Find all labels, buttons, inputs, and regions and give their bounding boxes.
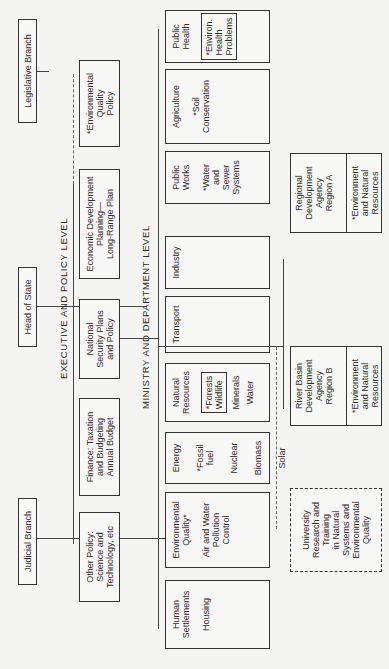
ministry-title: Industry bbox=[166, 237, 181, 288]
ministry-box-energy: Energy *Fossil fuel Nuclear Biomass Sola… bbox=[165, 432, 270, 484]
diagram-frame: Legislative Branch Head of State Judicia… bbox=[0, 0, 389, 669]
ministry-title: Transport bbox=[166, 297, 181, 352]
ministry-box-transport: Transport bbox=[165, 296, 270, 353]
org-chart: Legislative Branch Head of State Judicia… bbox=[0, 0, 389, 669]
university-label: University Research and Training in Natu… bbox=[301, 501, 371, 559]
exec-box-economic-development: Economic Development Planning— Long-Rang… bbox=[79, 169, 120, 279]
ministry-box-natural-resources: Natural Resources *Forests Wildlife Mine… bbox=[165, 363, 270, 422]
exec-bus-dashed bbox=[73, 74, 74, 184]
exec-box-label: Economic Development Planning— Long-Rang… bbox=[85, 176, 115, 271]
ministry-boxed-item: *Forests Wildlife bbox=[201, 372, 227, 414]
ministry-level-label: MINISTRY AND DEPARTMENT LEVEL bbox=[140, 225, 151, 409]
exec-box-label: Other Policy: Science and Technology, et… bbox=[85, 526, 115, 588]
ministry-items: *Fossil fuel Nuclear Biomass Solar bbox=[185, 433, 301, 483]
ministry-box-human-settlements: Human Settlements Housing bbox=[165, 580, 270, 649]
ministry-item: Nuclear bbox=[229, 433, 239, 483]
exec-box-finance: Finance: Taxation and Budgeting Annual B… bbox=[79, 398, 120, 496]
ministry-item: Biomass bbox=[253, 433, 263, 483]
agency-title: River Basin Development Agency Region B bbox=[291, 347, 347, 425]
ministry-title: Human Settlements bbox=[166, 581, 191, 648]
exec-box-label: Finance: Taxation and Budgeting Annual B… bbox=[85, 412, 115, 482]
ministry-item: Housing bbox=[201, 581, 211, 648]
executive-level-label: EXECUTIVE AND POLICY LEVEL bbox=[58, 218, 69, 379]
judicial-branch-box: Judicial Branch bbox=[18, 498, 37, 585]
exec-box-environmental-quality-policy: *Environmental Quality Policy bbox=[79, 60, 120, 147]
ministry-item: Solar bbox=[277, 433, 287, 483]
ministry-items: Air and Water Pollution Control bbox=[201, 493, 231, 567]
ministry-box-environmental-quality: Environmental Quality* Air and Water Pol… bbox=[165, 492, 270, 568]
legislative-label: Legislative Branch bbox=[23, 34, 33, 108]
university-dashed-connector bbox=[276, 347, 277, 529]
ministry-box-public-health: Public Health *Environ. Health Problems bbox=[165, 10, 270, 63]
connector bbox=[120, 338, 158, 339]
agency-box-region-a: Regional Development Agency Region A *En… bbox=[290, 153, 382, 233]
agency-sub: *Environment and Natural Resources bbox=[347, 154, 381, 232]
ministry-item: *Soil Conservation bbox=[191, 70, 211, 143]
ministry-items: *Water and Sewer Systems bbox=[201, 152, 241, 203]
ministry-items: *Soil Conservation bbox=[191, 70, 211, 143]
ministry-item: Water bbox=[245, 364, 255, 421]
ministry-item: *Water and Sewer Systems bbox=[201, 152, 241, 203]
ministry-item: *Fossil fuel bbox=[195, 433, 215, 483]
ministry-bus bbox=[158, 29, 159, 629]
ministry-item: Air and Water Pollution Control bbox=[201, 493, 231, 567]
head-of-state-label: Head of State bbox=[23, 279, 33, 334]
ministry-title: Energy bbox=[166, 433, 181, 483]
exec-box-label: *Environmental Quality Policy bbox=[85, 73, 115, 134]
agency-box-region-b: River Basin Development Agency Region B … bbox=[290, 346, 382, 426]
ministry-box-industry: Industry bbox=[165, 236, 270, 289]
exec-box-other-policy: Other Policy: Science and Technology, et… bbox=[79, 512, 120, 602]
ministry-title: Public Health bbox=[166, 11, 191, 62]
connector bbox=[158, 346, 283, 347]
ministry-title: Natural Resources bbox=[166, 364, 191, 421]
agency-title: Regional Development Agency Region A bbox=[291, 154, 347, 232]
ministry-box-public-works: Public Works *Water and Sewer Systems bbox=[165, 151, 270, 204]
ministry-item: Minerals bbox=[231, 364, 241, 421]
exec-box-national-security: National Security Plans and Policy bbox=[79, 299, 120, 379]
ministry-title: Agriculture bbox=[166, 70, 181, 143]
exec-bus bbox=[73, 184, 74, 544]
ministry-items: Housing bbox=[201, 581, 211, 648]
agency-sub: *Environment and Natural Resources bbox=[347, 347, 381, 425]
head-of-state-box: Head of State bbox=[18, 267, 37, 347]
exec-box-label: National Security Plans and Policy bbox=[85, 310, 115, 368]
connector bbox=[37, 71, 49, 72]
connector bbox=[283, 259, 284, 409]
ministry-box-agriculture: Agriculture *Soil Conservation bbox=[165, 69, 270, 144]
judicial-label: Judicial Branch bbox=[23, 511, 33, 572]
ministry-title: Environmental Quality* bbox=[166, 493, 191, 567]
university-box: University Research and Training in Natu… bbox=[290, 488, 382, 572]
legislative-branch-box: Legislative Branch bbox=[18, 19, 37, 123]
ministry-title: Public Works bbox=[166, 152, 191, 203]
ministry-boxed-item: *Environ. Health Problems bbox=[201, 14, 237, 60]
